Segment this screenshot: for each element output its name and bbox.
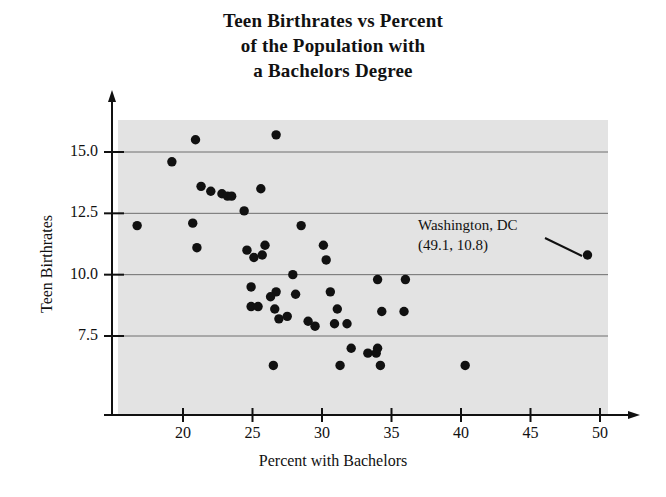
x-tick-label: 20 <box>158 424 208 442</box>
x-axis-label: Percent with Bachelors <box>0 452 666 470</box>
scatter-point <box>192 243 201 252</box>
x-tick-label: 35 <box>367 424 417 442</box>
scatter-plot-canvas <box>0 0 666 497</box>
x-tick-label: 45 <box>506 424 556 442</box>
x-tick-label: 50 <box>575 424 625 442</box>
scatter-point <box>376 361 385 370</box>
scatter-point <box>246 282 255 291</box>
y-tick-label: 15.0 <box>30 142 98 160</box>
scatter-point <box>167 157 176 166</box>
y-axis-label: Teen Birthrates <box>38 174 56 354</box>
scatter-point <box>399 307 408 316</box>
scatter-point <box>256 184 265 193</box>
scatter-point <box>283 312 292 321</box>
scatter-point <box>242 245 251 254</box>
scatter-point <box>270 304 279 313</box>
scatter-point <box>310 321 319 330</box>
scatter-point <box>132 221 141 230</box>
scatter-point <box>583 250 592 259</box>
scatter-point <box>206 187 215 196</box>
annotation-washington-dc: Washington, DC (49.1, 10.8) <box>418 215 518 255</box>
scatter-point <box>326 287 335 296</box>
annotation-label: Washington, DC <box>418 215 518 235</box>
scatter-point <box>373 344 382 353</box>
scatter-point <box>363 348 372 357</box>
scatter-point <box>196 182 205 191</box>
chart-figure: Teen Birthrates vs Percent of the Popula… <box>0 0 666 497</box>
x-tick-label: 30 <box>297 424 347 442</box>
scatter-point <box>291 290 300 299</box>
plot-background <box>118 120 608 415</box>
scatter-point <box>227 191 236 200</box>
scatter-point <box>260 241 269 250</box>
x-tick-label: 25 <box>228 424 278 442</box>
scatter-point <box>266 292 275 301</box>
scatter-point <box>271 130 280 139</box>
scatter-point <box>288 270 297 279</box>
scatter-point <box>319 241 328 250</box>
scatter-point <box>249 253 258 262</box>
scatter-point <box>335 361 344 370</box>
scatter-point <box>296 221 305 230</box>
scatter-point <box>239 206 248 215</box>
scatter-point <box>373 275 382 284</box>
scatter-point <box>188 218 197 227</box>
scatter-point <box>253 302 262 311</box>
scatter-point <box>269 361 278 370</box>
scatter-point <box>333 304 342 313</box>
scatter-point <box>460 361 469 370</box>
annotation-value: (49.1, 10.8) <box>418 235 518 255</box>
scatter-point <box>274 314 283 323</box>
scatter-point <box>321 255 330 264</box>
scatter-point <box>401 275 410 284</box>
scatter-point <box>191 135 200 144</box>
scatter-point <box>258 250 267 259</box>
scatter-point <box>377 307 386 316</box>
scatter-point <box>342 319 351 328</box>
x-tick-label: 40 <box>436 424 486 442</box>
scatter-point <box>346 344 355 353</box>
scatter-point <box>330 319 339 328</box>
